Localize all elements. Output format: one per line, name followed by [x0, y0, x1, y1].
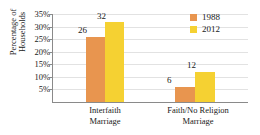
- bar-1988[interactable]: [175, 87, 195, 102]
- category-label-interfaith-marriage: Interfaith Marriage: [60, 105, 150, 126]
- x-axis-line: [52, 102, 248, 103]
- legend-item-2012[interactable]: 2012: [190, 23, 252, 35]
- x-axis-category-labels: Interfaith Marriage Faith/No Religion Ma…: [52, 105, 248, 135]
- y-tick-label: 25%: [24, 35, 50, 44]
- bar-2012[interactable]: [195, 72, 215, 102]
- y-axis-tick-labels: 35% 30% 25% 20% 15% 10% 5%: [20, 0, 50, 135]
- y-tick-label: 5%: [24, 85, 50, 94]
- y-tick-label: 35%: [24, 10, 50, 19]
- category-label-line1: Interfaith: [60, 105, 150, 116]
- category-label-line2: Marriage: [148, 116, 248, 127]
- legend-swatch-icon: [190, 26, 197, 33]
- y-tick-label: 20%: [24, 48, 50, 57]
- category-label-line1: Faith/No Religion: [148, 105, 248, 116]
- legend-label: 1988: [202, 13, 220, 22]
- data-label: 32: [97, 12, 106, 21]
- legend-swatch-icon: [190, 14, 197, 21]
- data-label: 12: [187, 61, 196, 70]
- legend: 1988 2012: [190, 11, 252, 35]
- data-label: 26: [78, 26, 87, 35]
- y-tick-label: 10%: [24, 73, 50, 82]
- legend-item-1988[interactable]: 1988: [190, 11, 252, 23]
- bar-group: [86, 14, 124, 102]
- legend-label: 2012: [202, 25, 220, 34]
- data-label: 6: [167, 76, 172, 85]
- category-label-faith-no-religion-marriage: Faith/No Religion Marriage: [148, 105, 248, 126]
- bar-chart: Percentage of Households 35% 30% 25% 20%…: [0, 0, 260, 135]
- category-label-line2: Marriage: [60, 116, 150, 127]
- y-tick-label: 15%: [24, 60, 50, 69]
- y-tick-label: 30%: [24, 23, 50, 32]
- bar-2012[interactable]: [105, 22, 124, 103]
- chart-title: [52, 0, 202, 3]
- bar-1988[interactable]: [86, 37, 105, 102]
